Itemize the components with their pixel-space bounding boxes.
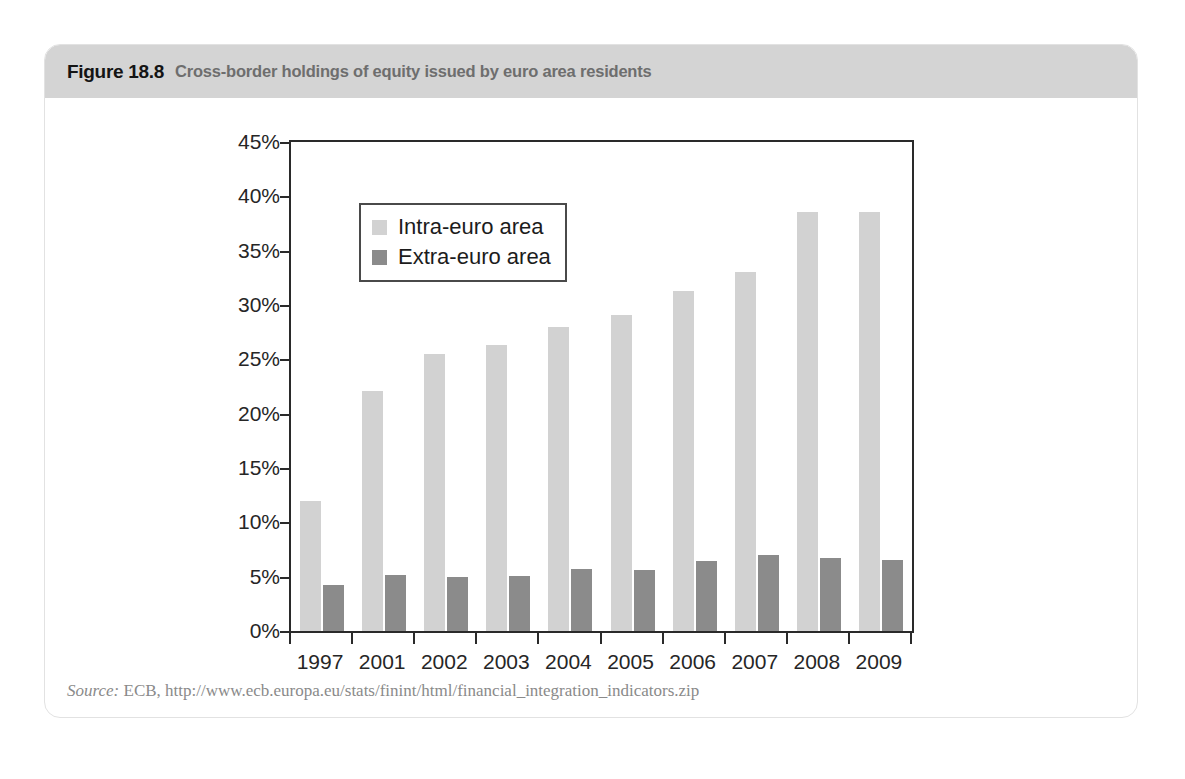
- y-axis-tick-mark: [280, 251, 289, 253]
- y-axis-tick-mark: [280, 305, 289, 307]
- bar-intra-euro-area-2003: [486, 345, 507, 631]
- x-axis-tick-label: 1997: [297, 650, 344, 674]
- y-axis-tick-mark: [280, 577, 289, 579]
- bar-extra-euro-area-2006: [696, 561, 717, 631]
- y-axis-tick-label: 10%: [238, 510, 280, 534]
- y-axis-tick-label: 15%: [238, 456, 280, 480]
- x-axis-tick-label: 2005: [607, 650, 654, 674]
- x-axis-tick-mark: [848, 633, 850, 644]
- y-axis-tick-label: 35%: [238, 239, 280, 263]
- figure-number: Figure 18.8: [67, 61, 164, 83]
- x-axis-tick-label: 2009: [856, 650, 903, 674]
- legend-swatch-icon: [372, 220, 387, 235]
- chart-legend: Intra-euro areaExtra-euro area: [359, 203, 567, 282]
- bar-intra-euro-area-2001: [362, 391, 383, 631]
- source-text: ECB, http://www.ecb.europa.eu/stats/fini…: [124, 681, 700, 700]
- bar-extra-euro-area-2004: [571, 569, 592, 631]
- source-label: Source:: [67, 681, 119, 700]
- x-axis-tick-label: 2006: [669, 650, 716, 674]
- x-axis-tick-mark: [910, 633, 912, 644]
- y-axis-tick-mark: [280, 142, 289, 144]
- bar-intra-euro-area-2005: [611, 315, 632, 631]
- x-axis-ticks: [289, 633, 914, 645]
- figure-caption: Cross-border holdings of equity issued b…: [175, 62, 652, 81]
- x-axis-tick-mark: [662, 633, 664, 644]
- bar-extra-euro-area-2005: [634, 570, 655, 631]
- y-axis-tick-label: 0%: [250, 619, 280, 643]
- bar-extra-euro-area-2007: [758, 555, 779, 631]
- x-axis-tick-label: 2004: [545, 650, 592, 674]
- y-axis-tick-label: 30%: [238, 293, 280, 317]
- y-axis-tick-label: 40%: [238, 184, 280, 208]
- bar-intra-euro-area-2009: [859, 212, 880, 631]
- legend-item: Extra-euro area: [372, 242, 551, 272]
- x-axis-labels: 1997200120022003200420052006200720082009: [289, 650, 914, 680]
- x-axis-tick-mark: [475, 633, 477, 644]
- x-axis-tick-label: 2008: [793, 650, 840, 674]
- x-axis-tick-mark: [289, 633, 291, 644]
- y-axis-tick-label: 5%: [250, 565, 280, 589]
- y-axis-tick-mark: [280, 522, 289, 524]
- y-axis-tick-mark: [280, 414, 289, 416]
- x-axis-tick-label: 2002: [421, 650, 468, 674]
- x-axis-tick-mark: [351, 633, 353, 644]
- bar-chart: 0%5%10%15%20%25%30%35%40%45% 19972001200…: [45, 98, 1137, 675]
- x-axis-tick-label: 2001: [359, 650, 406, 674]
- y-axis-tick-label: 20%: [238, 402, 280, 426]
- x-axis-tick-mark: [413, 633, 415, 644]
- bar-extra-euro-area-2001: [385, 575, 406, 632]
- x-axis-tick-label: 2007: [731, 650, 778, 674]
- y-axis-tick-mark: [280, 631, 289, 633]
- bar-intra-euro-area-2008: [797, 212, 818, 631]
- x-axis-tick-mark: [537, 633, 539, 644]
- bar-intra-euro-area-2002: [424, 354, 445, 631]
- bar-extra-euro-area-2009: [882, 560, 903, 631]
- y-axis-tick-label: 45%: [238, 130, 280, 154]
- x-axis-tick-mark: [724, 633, 726, 644]
- legend-label: Extra-euro area: [398, 246, 551, 268]
- y-axis-tick-label: 25%: [238, 347, 280, 371]
- y-axis-labels: 0%5%10%15%20%25%30%35%40%45%: [195, 140, 280, 633]
- legend-label: Intra-euro area: [398, 216, 544, 238]
- legend-swatch-icon: [372, 250, 387, 265]
- figure-panel: Figure 18.8 Cross-border holdings of equ…: [44, 44, 1138, 718]
- bar-extra-euro-area-2002: [447, 577, 468, 631]
- bar-intra-euro-area-1997: [300, 501, 321, 631]
- bar-intra-euro-area-2006: [673, 291, 694, 631]
- y-axis-tick-mark: [280, 468, 289, 470]
- y-axis-tick-mark: [280, 359, 289, 361]
- source-line: Source: ECB, http://www.ecb.europa.eu/st…: [67, 681, 699, 701]
- y-axis-tick-mark: [280, 196, 289, 198]
- bar-extra-euro-area-2003: [509, 576, 530, 631]
- x-axis-tick-mark: [600, 633, 602, 644]
- x-axis-tick-label: 2003: [483, 650, 530, 674]
- bar-extra-euro-area-2008: [820, 558, 841, 631]
- bar-extra-euro-area-1997: [323, 585, 344, 631]
- bar-intra-euro-area-2007: [735, 272, 756, 631]
- x-axis-tick-mark: [786, 633, 788, 644]
- figure-header: Figure 18.8 Cross-border holdings of equ…: [45, 45, 1137, 98]
- legend-item: Intra-euro area: [372, 212, 551, 242]
- bar-intra-euro-area-2004: [548, 327, 569, 631]
